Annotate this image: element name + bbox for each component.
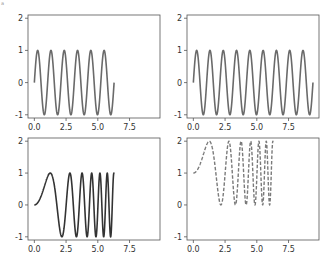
subplot-figure: 0.02.55.07.5-1012 0.02.55.07.5-1012 0.02… [0,0,331,269]
x-tick-label: 5.0 [91,123,104,132]
subplot-top-left: 0.02.55.07.5-1012 [15,14,160,132]
x-tick-label: 7.5 [282,123,295,132]
data-line [193,141,273,205]
y-tick-label: 2 [177,137,182,146]
data-line [34,50,114,114]
x-tick-label: 0.0 [187,245,200,254]
y-tick-label: -1 [15,111,23,120]
data-line [193,50,313,114]
x-tick-label: 0.0 [187,123,200,132]
x-tick-label: 5.0 [250,123,263,132]
y-tick-label: -1 [174,233,182,242]
x-tick-label: 2.5 [219,245,232,254]
x-tick-label: 7.5 [123,245,136,254]
y-tick-label: -1 [15,233,23,242]
data-line [34,173,114,237]
x-tick-label: 7.5 [282,245,295,254]
y-tick-label: 1 [177,169,182,178]
x-tick-label: 7.5 [123,123,136,132]
y-tick-label: 1 [18,46,23,55]
y-tick-label: 1 [177,46,182,55]
y-tick-label: 0 [177,79,182,88]
y-tick-label: 0 [18,79,23,88]
x-tick-label: 2.5 [219,123,232,132]
y-tick-label: -1 [174,111,182,120]
subplot-top-right: 0.02.55.07.5-1012 [174,14,319,132]
y-tick-label: 0 [18,201,23,210]
y-tick-label: 1 [18,169,23,178]
x-tick-label: 5.0 [250,245,263,254]
y-tick-label: 2 [18,14,23,23]
subplot-bottom-left: 0.02.55.07.5-1012 [15,137,160,254]
x-tick-label: 2.5 [60,123,73,132]
y-tick-label: 0 [177,201,182,210]
x-tick-label: 0.0 [28,245,41,254]
subplot-bottom-right: 0.02.55.07.5-1012 [174,137,319,254]
y-tick-label: 2 [18,137,23,146]
x-tick-label: 0.0 [28,123,41,132]
y-tick-label: 2 [177,14,182,23]
axes-frame [28,15,160,118]
axes-frame [187,15,319,118]
x-tick-label: 5.0 [91,245,104,254]
x-tick-label: 2.5 [60,245,73,254]
